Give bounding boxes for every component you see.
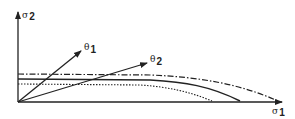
stress-diagram: σ2 σ1 θ1 θ2 [0,0,295,119]
theta-2-label: θ2 [150,54,162,67]
dotted-curve [18,84,212,101]
theta-1-arrow [18,51,81,102]
theta-1-label: θ1 [84,42,96,55]
sigma-2-label: σ2 [22,10,35,22]
dash-dot-curve [18,74,278,101]
theta-2-arrow [18,63,147,102]
sigma-1-label: σ1 [272,106,285,118]
solid-curve [18,79,240,101]
